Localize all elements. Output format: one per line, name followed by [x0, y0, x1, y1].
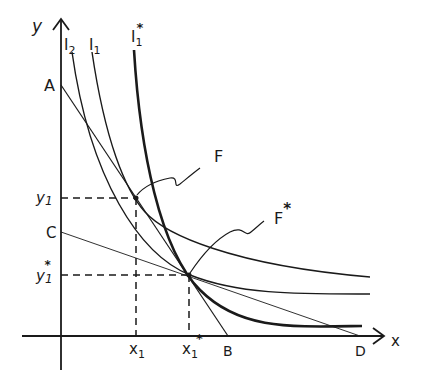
- curve-labels: I2 I1 I1*: [64, 20, 143, 57]
- x-axis-label: x: [391, 332, 400, 350]
- label-F: F: [214, 147, 223, 166]
- indifference-curve-I1: [92, 52, 370, 277]
- indifference-curve-I1star: [134, 50, 362, 326]
- pointer-Fstar: [190, 221, 264, 273]
- label-x1: x1: [129, 340, 145, 361]
- indifference-curves: [72, 50, 370, 326]
- pointer-F: [137, 168, 200, 195]
- y-axis-label: y: [31, 16, 43, 36]
- label-A: A: [44, 76, 55, 95]
- label-D: D: [355, 343, 366, 359]
- label-y1: y1: [35, 189, 53, 208]
- point-Fstar: [187, 273, 192, 278]
- reference-lines: [61, 198, 189, 336]
- indifference-curve-diagram: y x I2 I1 I1* F: [0, 0, 422, 388]
- label-I2: I2: [64, 36, 75, 57]
- intercept-labels: A C B D: [44, 76, 366, 359]
- point-labels: F F*: [214, 147, 291, 228]
- label-C: C: [46, 224, 56, 242]
- indifference-curve-I2: [72, 52, 370, 294]
- label-I1: I1: [89, 36, 100, 57]
- axes: y x: [22, 16, 400, 370]
- label-y1star: y1*: [35, 258, 53, 286]
- label-B: B: [223, 343, 233, 359]
- label-Fstar: F*: [274, 200, 291, 228]
- point-F: [134, 196, 139, 201]
- label-I1star: I1*: [131, 20, 143, 49]
